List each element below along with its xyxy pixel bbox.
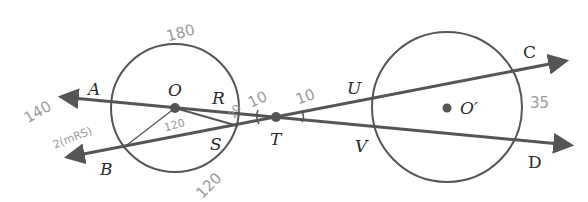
label-s: S — [210, 134, 222, 154]
line-ad — [62, 97, 570, 145]
label-v: V — [355, 136, 369, 156]
geometry-diagram: A B O R S T U V O′ C D 180 120 120 140 2… — [0, 0, 588, 202]
label-r: R — [211, 88, 225, 108]
label-a: A — [86, 79, 100, 99]
annotation-angle-t: 10 — [293, 85, 317, 108]
annotation-angle-r: 10 — [245, 87, 270, 111]
annotation-right-arc: 35 — [530, 94, 549, 112]
point-o-prime — [443, 104, 452, 113]
point-t — [271, 112, 281, 122]
label-u: U — [347, 78, 362, 98]
line-bc — [68, 61, 565, 157]
annotation-central-angle: 120 — [163, 116, 187, 134]
annotation-left-formula: 2(mRS) — [51, 124, 94, 151]
label-t: T — [270, 129, 283, 149]
annotation-left-value: 140 — [21, 97, 55, 127]
label-o: O — [168, 80, 182, 100]
annotation-arc-rs: 20 — [226, 102, 244, 121]
annotation-bottom-arc: 120 — [192, 169, 225, 202]
label-c: C — [523, 42, 536, 62]
label-d: D — [528, 152, 542, 172]
label-o-prime: O′ — [460, 98, 478, 118]
label-b: B — [99, 159, 113, 179]
point-o — [170, 103, 180, 113]
angle-mark-t-right — [302, 112, 304, 122]
annotation-top-arc: 180 — [164, 20, 196, 45]
